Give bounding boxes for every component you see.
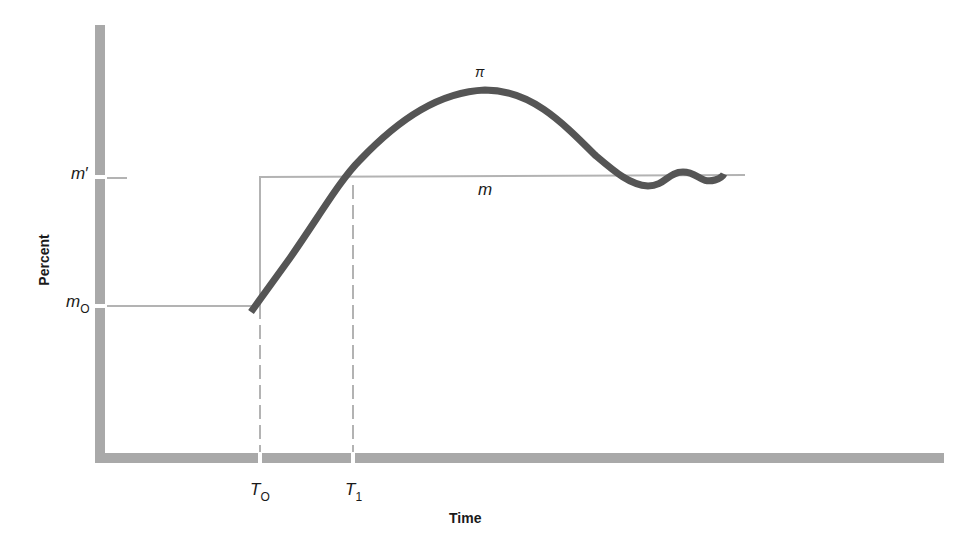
x-tick-t0: TO: [250, 480, 270, 502]
y-axis-title: Percent: [36, 230, 52, 290]
x-axis-title: Time: [449, 510, 481, 526]
m-prime-base: m: [71, 164, 85, 183]
m-line-label: m: [478, 180, 492, 200]
y-axis: [95, 25, 105, 463]
m-prime-mark: ′: [85, 164, 88, 183]
x-tick-gap-t0: [258, 452, 262, 464]
t0-sub: O: [260, 490, 269, 504]
x-tick-gap-t1: [351, 452, 355, 464]
y-tick-m-prime: m′: [71, 164, 88, 184]
pi-curve-label: π: [475, 64, 484, 80]
pi-curve: [251, 90, 724, 312]
target-step-line-m: [107, 175, 745, 306]
t0-base: T: [250, 480, 260, 499]
x-axis: [95, 453, 944, 463]
y-tick-m0: mO: [66, 292, 90, 314]
m0-sub: O: [80, 302, 89, 316]
y-tick-gap-m0: [94, 304, 106, 308]
m0-base: m: [66, 292, 80, 311]
diagram-canvas: [0, 0, 964, 551]
t1-sub: 1: [355, 490, 362, 504]
x-tick-t1: T1: [345, 480, 362, 502]
t1-base: T: [345, 480, 355, 499]
y-tick-gap-m-prime: [94, 175, 106, 179]
